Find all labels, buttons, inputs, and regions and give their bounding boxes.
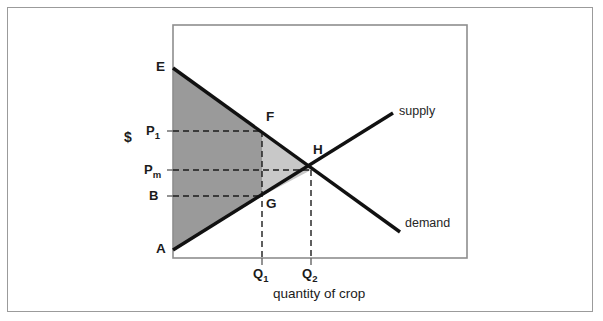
- y-tick-label-b: B: [149, 189, 158, 205]
- point-label-g: G: [266, 197, 277, 211]
- supply-curve-label: supply: [399, 105, 435, 118]
- x-axis-title: quantity of crop: [273, 287, 365, 301]
- x-tick-label-q1-base: Q: [253, 266, 263, 281]
- x-tick-label-q2-base: Q: [302, 266, 312, 281]
- y-axis-title: $: [124, 130, 132, 144]
- y-tick-label-pm: Pm: [144, 163, 161, 179]
- point-label-f: F: [266, 110, 274, 124]
- economics-supply-demand-figure: E F H G A P1 Pm B Q1 Q2 $ quantity of cr…: [0, 0, 603, 321]
- point-label-h: H: [313, 143, 323, 157]
- y-tick-label-p1-base: P: [146, 123, 155, 138]
- point-label-e: E: [156, 60, 165, 74]
- demand-curve-label: demand: [405, 217, 450, 230]
- y-tick-label-p1-sub: 1: [155, 130, 160, 141]
- x-tick-label-q2-sub: 2: [312, 273, 317, 284]
- y-tick-label-b-base: B: [149, 188, 158, 203]
- x-tick-label-q1-sub: 1: [263, 273, 268, 284]
- y-tick-label-p1: P1: [146, 124, 160, 140]
- y-tick-label-pm-sub: m: [153, 169, 161, 180]
- point-label-a: A: [156, 242, 166, 256]
- y-tick-label-pm-base: P: [144, 162, 153, 177]
- x-tick-label-q2: Q2: [302, 267, 317, 283]
- x-tick-label-q1: Q1: [253, 267, 268, 283]
